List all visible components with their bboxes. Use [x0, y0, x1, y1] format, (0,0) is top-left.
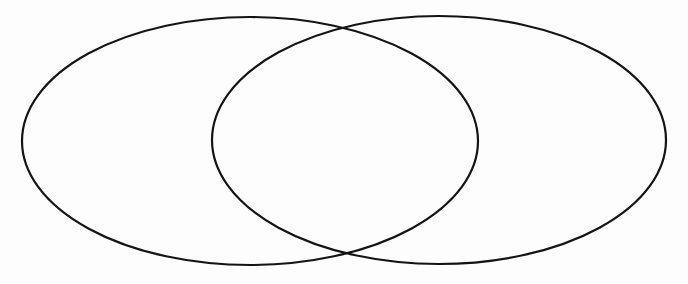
venn-diagram-svg — [0, 0, 688, 284]
diagram-background — [0, 0, 688, 284]
venn-diagram-canvas — [0, 0, 688, 284]
